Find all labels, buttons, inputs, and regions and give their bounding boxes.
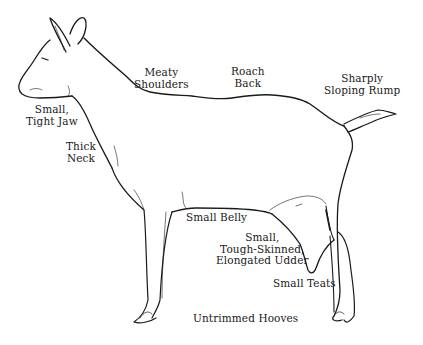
front-leg-back [152, 212, 172, 318]
topline [84, 38, 344, 126]
label-small-belly: Small Belly [186, 212, 247, 224]
label-sharply-sloping-rump: Sharply Sloping Rump [324, 73, 400, 96]
near-ear [50, 18, 70, 52]
goat-line-drawing [0, 0, 423, 345]
eye [42, 58, 48, 60]
label-untrimmed-hooves: Untrimmed Hooves [193, 313, 298, 325]
front-leg-front [112, 168, 156, 323]
label-meaty-shoulders: Meaty Shoulders [134, 67, 189, 90]
label-small-tight-jaw: Small, Tight Jaw [26, 104, 78, 127]
goat-conformation-diagram: Meaty Shoulders Roach Back Sharply Slopi… [0, 0, 423, 345]
label-roach-back: Roach Back [231, 66, 265, 89]
tail [344, 110, 396, 132]
rear-outline [333, 126, 353, 321]
hind-leg-near [338, 232, 355, 322]
far-ear [70, 18, 86, 44]
label-small-teats: Small Teats [273, 278, 336, 290]
label-thick-neck: Thick Neck [66, 141, 96, 164]
label-udder: Small, Tough-Skinned, Elongated Udder [216, 232, 309, 267]
